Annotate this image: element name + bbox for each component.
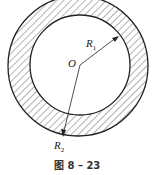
center-label: O xyxy=(68,57,76,69)
figure-caption: 图 8 – 23 xyxy=(54,160,100,171)
annulus-diagram: O R1 R2 图 8 – 23 xyxy=(0,0,159,175)
